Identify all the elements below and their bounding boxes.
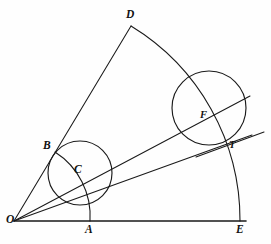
label-B: B xyxy=(43,140,51,152)
ray-OD xyxy=(14,26,131,221)
label-E: E xyxy=(236,224,244,236)
geometry-canvas xyxy=(0,0,271,244)
arc-DE xyxy=(131,26,240,221)
arc-BA xyxy=(55,152,90,221)
label-T: T xyxy=(229,140,235,151)
label-D: D xyxy=(126,9,134,21)
label-O: O xyxy=(6,214,14,226)
label-C: C xyxy=(74,164,82,176)
geometry-figure: O A B C D E F T xyxy=(0,0,271,244)
large-circle-F xyxy=(172,71,246,145)
label-F: F xyxy=(200,110,207,121)
label-A: A xyxy=(85,224,93,236)
